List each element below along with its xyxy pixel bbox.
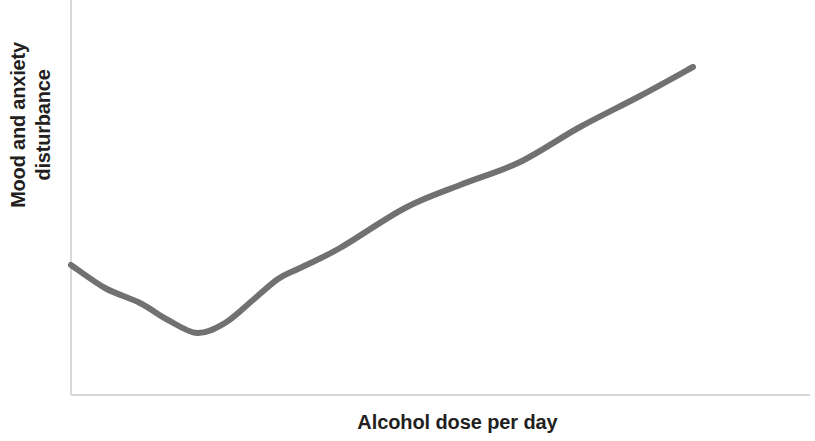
data-series-group bbox=[71, 67, 693, 333]
y-axis-label-line-2: disturbance bbox=[31, 30, 56, 220]
axis-lines bbox=[71, 0, 810, 395]
x-axis-label: Alcohol dose per day bbox=[0, 410, 815, 434]
y-axis-label: Mood and anxiety disturbance bbox=[6, 30, 56, 220]
chart-figure: Mood and anxiety disturbance Alcohol dos… bbox=[0, 0, 815, 441]
y-axis-label-line-1: Mood and anxiety bbox=[6, 30, 31, 220]
j-curve-line bbox=[71, 67, 693, 333]
chart-plot-area bbox=[0, 0, 815, 441]
